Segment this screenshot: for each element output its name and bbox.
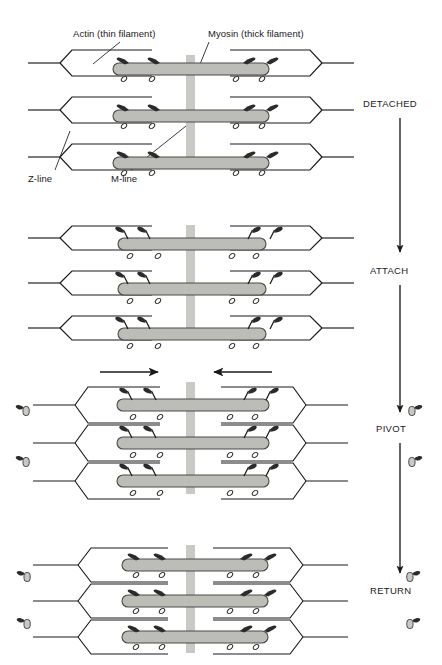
free-myosin-heads xyxy=(16,405,422,467)
stage-label-return: RETURN xyxy=(370,585,411,596)
annotation-leader-lines xyxy=(55,42,209,170)
stage-label-detached: DETACHED xyxy=(363,98,417,109)
panel-pivot xyxy=(16,372,422,499)
stage-label-attach: ATTACH xyxy=(370,265,408,276)
zline-leader-line xyxy=(55,131,70,170)
panel-detached xyxy=(28,50,354,177)
muscle-contraction-diagram: Actin (thin filament) Myosin (thick fila… xyxy=(0,0,442,665)
panel-attach xyxy=(28,225,354,350)
actin-label: Actin (thin filament) xyxy=(73,28,155,39)
panel-return xyxy=(17,545,420,654)
z-line-label: Z-line xyxy=(28,173,52,184)
m-line-label: M-line xyxy=(111,173,137,184)
myosin-label: Myosin (thick filament) xyxy=(208,28,304,39)
actin-leader-line xyxy=(93,42,120,64)
stage-label-pivot: PIVOT xyxy=(376,423,406,434)
